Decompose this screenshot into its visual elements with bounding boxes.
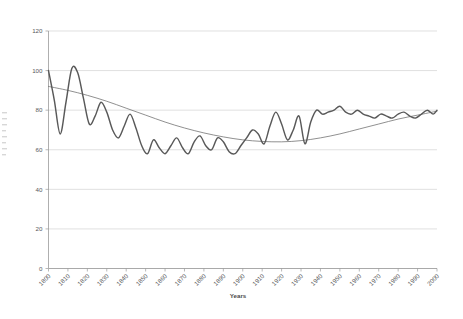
y-tick-label: 120 bbox=[32, 27, 43, 34]
y-tick-label: 40 bbox=[36, 186, 43, 193]
chart-container: 020406080100120 180018101820183018401850… bbox=[0, 0, 463, 319]
y-tick-label: 0 bbox=[39, 265, 43, 272]
y-tick-label: 100 bbox=[32, 67, 43, 74]
y-tick-label: 20 bbox=[36, 225, 43, 232]
chart-background bbox=[0, 0, 463, 319]
y-tick-label: 60 bbox=[36, 146, 43, 153]
y-tick-label: 80 bbox=[36, 106, 43, 113]
x-axis-ticks bbox=[49, 269, 438, 272]
x-axis-title: Years bbox=[230, 292, 247, 299]
line-chart: 020406080100120 180018101820183018401850… bbox=[0, 0, 463, 319]
